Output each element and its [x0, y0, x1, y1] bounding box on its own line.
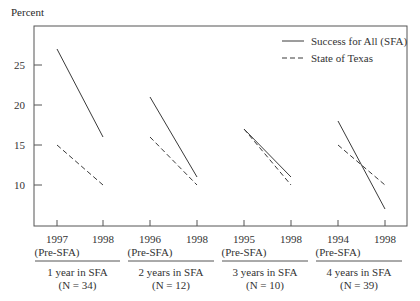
- group-label: 2 years in SFA: [139, 266, 204, 278]
- y-tick-label: 15: [14, 139, 26, 151]
- x-tick-label: 1994: [327, 233, 350, 245]
- group-n-label: (N = 12): [152, 279, 190, 292]
- pre-sfa-label: (Pre-SFA): [127, 246, 172, 259]
- legend-solid-label: Success for All (SFA): [311, 35, 407, 48]
- texas-line: [244, 129, 291, 185]
- y-tick-label: 25: [14, 59, 26, 71]
- x-tick-label: 1998: [374, 233, 397, 245]
- group-n-label: (N = 34): [59, 279, 97, 292]
- x-tick-label: 1998: [186, 233, 209, 245]
- pre-sfa-label: (Pre-SFA): [315, 246, 360, 259]
- y-axis: 10152025: [14, 59, 42, 191]
- x-tick-label: 1998: [280, 233, 303, 245]
- sfa-line: [57, 49, 103, 137]
- pre-sfa-label: (Pre-SFA): [34, 246, 79, 259]
- y-tick-label: 10: [14, 179, 26, 191]
- x-tick-label: 1997: [46, 233, 69, 245]
- x-tick-label: 1998: [92, 233, 115, 245]
- y-tick-label: 20: [14, 99, 26, 111]
- line-chart: 10152025 19971998(Pre-SFA)19961998(Pre-S…: [0, 0, 420, 301]
- sfa-line: [150, 97, 197, 177]
- group-label: 4 years in SFA: [327, 266, 392, 278]
- legend-dashed-label: State of Texas: [311, 52, 373, 64]
- x-tick-label: 1996: [139, 233, 162, 245]
- sfa-line: [338, 121, 385, 209]
- sfa-line: [244, 129, 291, 177]
- legend: Success for All (SFA) State of Texas: [282, 35, 407, 64]
- texas-line: [150, 137, 197, 185]
- group-label: 3 years in SFA: [233, 266, 298, 278]
- series-lines: [57, 49, 385, 209]
- x-tick-label: 1995: [233, 233, 256, 245]
- group-n-label: (N = 39): [340, 279, 378, 292]
- group-labels: 1 year in SFA(N = 34)2 years in SFA(N = …: [35, 261, 402, 292]
- pre-sfa-label: (Pre-SFA): [221, 246, 266, 259]
- group-n-label: (N = 10): [246, 279, 284, 292]
- group-label: 1 year in SFA: [47, 266, 108, 278]
- texas-line: [57, 145, 103, 185]
